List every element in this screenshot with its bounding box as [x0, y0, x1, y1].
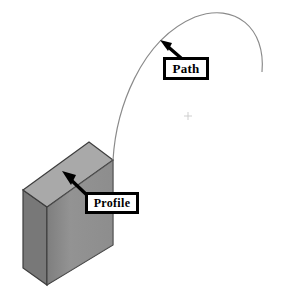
diagram-canvas: Path Profile	[0, 0, 284, 306]
diagram-scene	[0, 0, 284, 306]
center-crosshair-icon	[184, 112, 192, 120]
path-callout-arrow	[160, 40, 181, 58]
profile-callout-label: Profile	[85, 192, 139, 214]
sweep-path-curve	[113, 13, 262, 160]
path-callout-label: Path	[163, 57, 209, 80]
